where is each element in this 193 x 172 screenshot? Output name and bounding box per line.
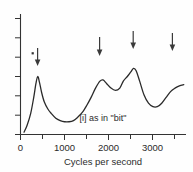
spectrum-figure: 0 1000 2000 3000 Cycles per second [i] a… <box>0 0 193 172</box>
dot-marker <box>32 52 34 54</box>
y-axis-ticks <box>15 19 21 135</box>
formant-arrow-1 <box>35 48 41 66</box>
x-tick-label-0: 0 <box>18 142 23 153</box>
x-tick-label-2000: 2000 <box>98 142 119 153</box>
phoneme-annotation: [i] as in "bit" <box>80 113 127 123</box>
x-tick-label-3000: 3000 <box>142 142 163 153</box>
x-tick-label-1000: 1000 <box>54 142 75 153</box>
formant-arrow-2 <box>97 37 103 56</box>
formant-arrow-3 <box>130 31 136 49</box>
formant-arrow-4 <box>170 33 176 51</box>
spectrum-chart: 0 1000 2000 3000 Cycles per second [i] a… <box>0 0 193 172</box>
x-axis-title: Cycles per second <box>64 156 142 167</box>
